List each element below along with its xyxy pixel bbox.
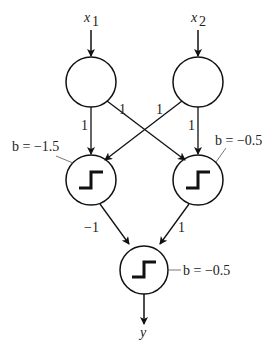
svg-text:2: 2: [199, 14, 206, 29]
weight-x1-h2: 1: [119, 102, 126, 117]
bias-leader-h1: [56, 156, 73, 163]
edge-h1-o: [100, 204, 129, 244]
input-node-x1: [66, 57, 116, 107]
weight-h1-o: −1: [84, 220, 99, 235]
hidden-node-h2: [173, 155, 223, 205]
step-function-icon: [79, 172, 103, 188]
svg-text:x: x: [83, 10, 91, 25]
output-label-y: y: [138, 325, 147, 340]
xor-network-diagram: x 1 x 2 1 1 1 1 b = −1.5 b = −0.5 −1 1 b…: [0, 0, 275, 351]
weight-h2-o: 1: [178, 220, 185, 235]
weight-x1-h1: 1: [81, 118, 88, 133]
weight-x2-h1: 1: [156, 102, 163, 117]
input-label-x1: x 1: [83, 10, 99, 29]
step-function-icon: [132, 262, 156, 277]
hidden-node-h1: [66, 155, 116, 205]
bias-label-h2: b = −0.5: [215, 133, 262, 148]
output-node: [120, 246, 168, 294]
edge-x2-h1: [105, 101, 182, 160]
svg-text:1: 1: [92, 14, 99, 29]
weight-x2-h2: 1: [188, 118, 195, 133]
bias-label-output: b = −0.5: [183, 263, 230, 278]
input-node-x2: [173, 57, 223, 107]
bias-label-h1: b = −1.5: [12, 139, 59, 154]
step-function-icon: [186, 172, 210, 188]
svg-text:x: x: [190, 10, 198, 25]
bias-leader-h2: [216, 148, 226, 162]
input-label-x2: x 2: [190, 10, 206, 29]
